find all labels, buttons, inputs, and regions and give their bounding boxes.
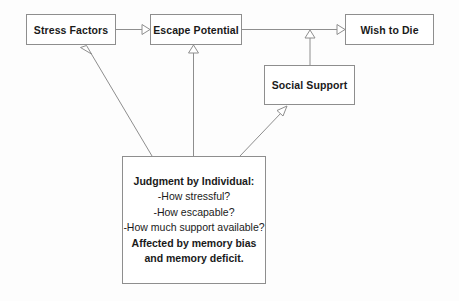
node-judgment-by-individual[interactable]: Judgment by Individual: -How stressful? … (122, 156, 266, 284)
judgment-line-escapable: -How escapable? (153, 205, 234, 221)
judgment-line-memory-bias: Affected by memory bias (132, 236, 257, 252)
judgment-line-stressful: -How stressful? (158, 189, 230, 205)
judgment-line-heading: Judgment by Individual: (134, 174, 255, 190)
node-escape-potential-label: Escape Potential (153, 24, 239, 36)
node-stress-factors-label: Stress Factors (34, 24, 108, 36)
node-wish-to-die[interactable]: Wish to Die (345, 14, 434, 45)
edge-judgment-to-escape (189, 45, 199, 156)
edge-judgment-to-stress (81, 46, 153, 157)
edge-stress-to-escape (116, 25, 150, 35)
judgment-line-memory-deficit: and memory deficit. (144, 251, 243, 267)
node-social-support-label: Social Support (272, 79, 348, 91)
node-stress-factors[interactable]: Stress Factors (26, 14, 116, 45)
edge-social-to-escape-wish-link (305, 30, 315, 65)
node-wish-to-die-label: Wish to Die (360, 24, 418, 36)
judgment-line-support: -How much support available? (123, 220, 264, 236)
edge-judgment-to-social (240, 106, 287, 156)
edge-escape-to-wish (242, 25, 345, 35)
diagram-canvas: Stress Factors Escape Potential Wish to … (0, 0, 459, 301)
node-escape-potential[interactable]: Escape Potential (150, 14, 242, 45)
node-social-support[interactable]: Social Support (264, 65, 355, 105)
